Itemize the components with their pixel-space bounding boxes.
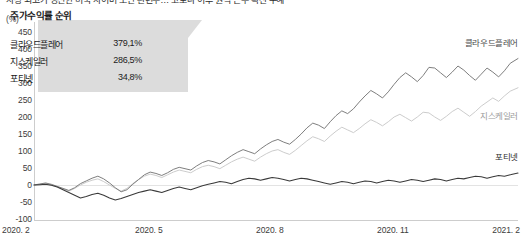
callout-tail: [188, 20, 202, 38]
callout-row-2: 포티넷34,8%: [10, 72, 142, 87]
callout-row-name-2: 포티넷: [10, 72, 33, 85]
series-line-2: [34, 173, 518, 200]
series-label-0: 클라우드플레어: [465, 39, 518, 48]
callout-row-value-2: 34,8%: [118, 72, 142, 82]
callout-row-name-0: 클라우드플레어: [10, 38, 63, 51]
callout-row-name-1: 지스케일러: [10, 55, 48, 68]
callout-row-value-1: 286,5%: [113, 55, 142, 65]
series-line-1: [34, 88, 518, 191]
callout-row-value-0: 379,1%: [113, 38, 142, 48]
chart-root: 사상 최고가 경신한 미국 사이버 보안 관련주… 코로나 이후 원격 근무 확…: [0, 0, 524, 247]
series-label-1: 지스케일러: [480, 112, 518, 121]
series-label-2: 포티넷: [495, 153, 518, 162]
callout-title: 주가수익률 순위: [10, 8, 72, 22]
callout-row-1: 지스케일러286,5%: [10, 55, 142, 70]
callout-row-0: 클라우드플레어379,1%: [10, 38, 142, 53]
